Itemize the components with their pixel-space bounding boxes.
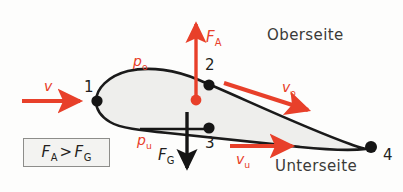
- velocity-freestream-label: v: [44, 79, 52, 93]
- airfoil-lift-diagram: FA FG po pu v vo vu 1 2 3 4 Oberseite Un…: [0, 0, 403, 192]
- pressure-upper-label: po: [133, 54, 148, 71]
- lower-side-label: Unterseite: [275, 159, 357, 174]
- point-3-marker: [203, 122, 214, 133]
- point-4-marker: [365, 141, 377, 153]
- upper-side-label: Oberseite: [267, 28, 344, 43]
- velocity-lower-label: vu: [236, 152, 250, 169]
- lift-force-label: FA: [206, 30, 221, 48]
- weight-force-label: FG: [158, 148, 174, 166]
- point-1-marker: [91, 95, 102, 106]
- lift-origin-dot: [191, 95, 202, 106]
- point-4-label: 4: [383, 148, 393, 163]
- point-2-marker: [203, 79, 214, 90]
- point-1-label: 1: [84, 80, 94, 95]
- point-2-label: 2: [205, 58, 215, 73]
- velocity-upper-label: vo: [282, 80, 296, 97]
- pressure-lower-label: pu: [137, 133, 152, 150]
- force-relation-box: FA>FG: [23, 138, 110, 167]
- point-3-label: 3: [205, 136, 215, 151]
- force-relation-text: FA>FG: [42, 143, 92, 163]
